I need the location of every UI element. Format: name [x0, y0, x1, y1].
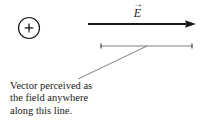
caption-text-block: Vector perceived as the field anywhere a…: [10, 80, 120, 117]
caption-line-1: Vector perceived as: [10, 80, 120, 92]
field-vector-arrowhead-icon: [185, 20, 196, 28]
caption-line-2: the field anywhere: [10, 92, 120, 104]
field-vector-symbol: E: [133, 7, 142, 20]
point-charge-symbol: +: [18, 17, 40, 39]
physics-field-diagram: + → E Vector perceived as the field anyw…: [0, 0, 204, 122]
field-vector-label: → E: [133, 1, 142, 20]
caption-line-3: along this line.: [10, 105, 120, 117]
caption-leader-line: [78, 46, 147, 79]
